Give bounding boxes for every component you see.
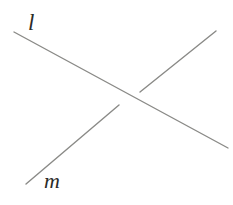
geometry-figure-canvas: l m (0, 0, 233, 205)
line-l (14, 32, 228, 148)
intersecting-lines-diagram (0, 0, 233, 205)
line-m-upper-segment (140, 31, 216, 92)
line-label-l: l (28, 11, 34, 34)
line-m-lower-segment (26, 105, 119, 184)
line-label-m: m (44, 170, 60, 192)
